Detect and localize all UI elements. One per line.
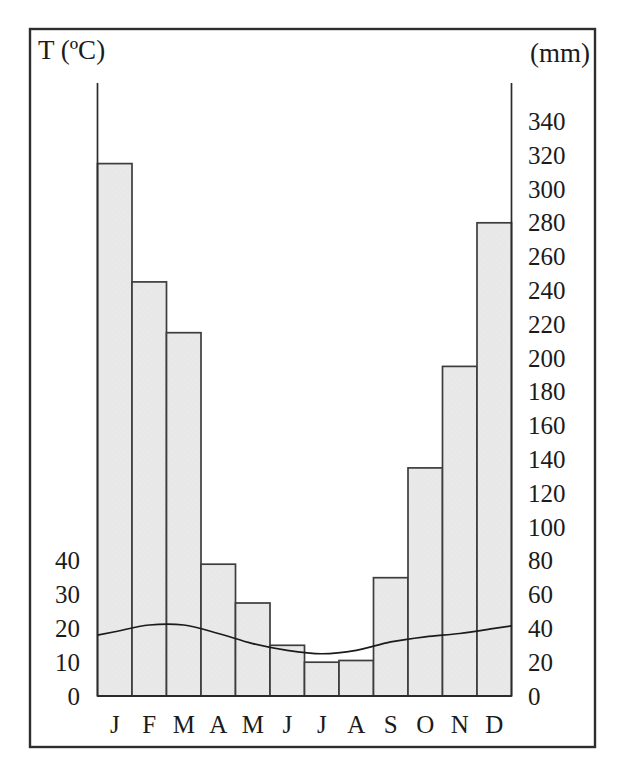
precip-bar-11	[443, 366, 478, 696]
mm-tick-80: 80	[528, 547, 553, 574]
temp-tick-10: 10	[55, 649, 80, 676]
temp-tick-20: 20	[55, 615, 80, 642]
mm-tick-260: 260	[528, 243, 566, 270]
temp-tick-30: 30	[55, 581, 80, 608]
month-label-11: N	[451, 711, 469, 738]
mm-tick-160: 160	[528, 412, 566, 439]
precip-bar-1	[98, 164, 133, 696]
precip-bar-6	[270, 645, 305, 696]
month-label-4: A	[209, 711, 227, 738]
month-label-6: J	[282, 711, 292, 738]
month-label-8: A	[347, 711, 365, 738]
mm-tick-0: 0	[528, 683, 541, 710]
mm-tick-300: 300	[528, 176, 566, 203]
mm-tick-140: 140	[528, 446, 566, 473]
month-label-10: O	[416, 711, 434, 738]
mm-tick-320: 320	[528, 142, 566, 169]
mm-tick-100: 100	[528, 514, 566, 541]
mm-tick-60: 60	[528, 581, 553, 608]
mm-tick-240: 240	[528, 277, 566, 304]
mm-tick-220: 220	[528, 311, 566, 338]
month-label-7: J	[317, 711, 327, 738]
climograph-page: T (ºC) (mm) 0204060801001201401601802002…	[0, 0, 626, 773]
precip-bar-2	[132, 282, 167, 696]
mm-tick-340: 340	[528, 108, 566, 135]
month-label-12: D	[485, 711, 503, 738]
month-label-1: J	[110, 711, 120, 738]
month-label-2: F	[142, 711, 156, 738]
mm-tick-180: 180	[528, 378, 566, 405]
month-label-3: M	[173, 711, 195, 738]
month-label-5: M	[242, 711, 264, 738]
mm-tick-200: 200	[528, 345, 566, 372]
climograph-chart: 0204060801001201401601802002202402602803…	[0, 0, 626, 773]
precip-bar-8	[339, 661, 374, 697]
precip-bar-10	[408, 468, 443, 696]
mm-tick-280: 280	[528, 209, 566, 236]
precip-bar-3	[167, 333, 202, 696]
temp-tick-0: 0	[68, 683, 81, 710]
mm-tick-40: 40	[528, 615, 553, 642]
mm-tick-120: 120	[528, 480, 566, 507]
mm-tick-20: 20	[528, 649, 553, 676]
precip-bar-9	[374, 578, 409, 696]
month-label-9: S	[384, 711, 398, 738]
precip-bar-5	[236, 603, 271, 696]
precip-bar-12	[477, 223, 512, 696]
temp-tick-40: 40	[55, 547, 80, 574]
precip-bar-7	[305, 662, 340, 696]
